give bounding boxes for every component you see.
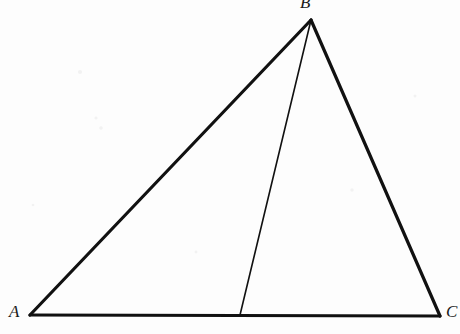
vertex-label-c: C <box>446 303 457 320</box>
vertex-label-b: B <box>300 0 310 11</box>
paper-speckles <box>32 70 417 254</box>
segment-ac-base <box>30 315 440 316</box>
segment-ab <box>30 20 311 315</box>
triangle-diagram-canvas <box>0 0 460 334</box>
segment-bc <box>311 20 440 316</box>
vertex-label-a: A <box>9 303 19 320</box>
segment-bd-cevian <box>240 20 311 315</box>
geometry-figure: A B C <box>0 0 460 334</box>
